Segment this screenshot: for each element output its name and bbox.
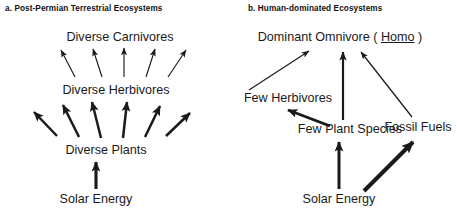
arrow-line	[364, 142, 413, 191]
arrow-line	[168, 50, 186, 77]
arrow-line	[93, 49, 102, 77]
node-label-fossil-fuels: Fossil Fuels	[384, 120, 451, 134]
flow-b-solar-to-fossil	[364, 142, 413, 191]
arrow-line	[146, 49, 155, 77]
arrow-line	[92, 102, 101, 138]
arrow-line	[34, 112, 57, 136]
node-label-solar-energy-b: Solar Energy	[303, 192, 376, 206]
node-label-diverse-herbivores: Diverse Herbivores	[62, 83, 169, 97]
arrow-line	[123, 102, 127, 138]
panel-b-title: b. Human-dominated Ecosystems	[248, 4, 382, 13]
flow-a-herbivores-to-carnivores	[61, 48, 186, 77]
arrow-line	[63, 105, 79, 137]
flow-a-plants-to-herbivores	[34, 102, 190, 138]
omnivore-label-suffix: )	[415, 30, 423, 44]
figure-caption-fragment	[8, 212, 198, 219]
arrow-line	[361, 52, 412, 117]
arrow-line	[61, 50, 75, 77]
node-label-diverse-plants: Diverse Plants	[65, 143, 146, 157]
panel-a-title: a. Post-Permian Terrestrial Ecosystems	[5, 4, 162, 13]
arrow-line	[249, 51, 309, 90]
node-label-dominant-omnivore: Dominant Omnivore ( Homo )	[258, 30, 422, 44]
flow-b-herbivores-to-omnivore	[249, 51, 309, 90]
node-label-solar-energy-a: Solar Energy	[60, 192, 133, 206]
node-label-diverse-carnivores: Diverse Carnivores	[66, 30, 173, 44]
arrow-line	[145, 106, 160, 137]
figure-root: a. Post-Permian Terrestrial Ecosystems b…	[0, 0, 457, 219]
omnivore-genus-homo: Homo	[381, 30, 415, 44]
node-label-few-herbivores: Few Herbivores	[244, 91, 332, 105]
omnivore-label-prefix: Dominant Omnivore (	[258, 30, 381, 44]
arrow-line	[166, 113, 190, 136]
flow-b-fossil-to-omnivore	[361, 52, 412, 117]
